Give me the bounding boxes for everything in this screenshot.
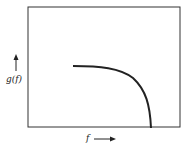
curve-g-of-f — [73, 66, 151, 128]
x-axis-label: f — [86, 133, 89, 143]
right-arrow-icon — [94, 137, 116, 142]
y-axis-label: g(f) — [6, 74, 22, 84]
up-arrow-icon — [14, 54, 19, 71]
diagram-canvas — [0, 0, 188, 153]
